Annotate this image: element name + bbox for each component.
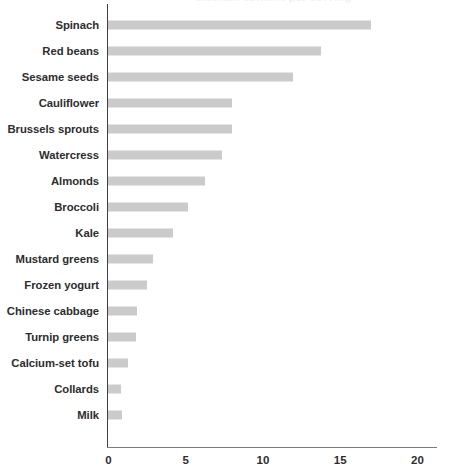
bar-almonds [108, 177, 205, 186]
bar-category-label: Cauliflower [39, 97, 99, 109]
bar-category-label: Spinach [55, 19, 99, 31]
bar-spinach [108, 21, 371, 30]
bar-row: Turnip greens [107, 324, 425, 350]
plot-area: SpinachRed beansSesame seedsCauliflowerB… [107, 6, 425, 446]
bar-category-label: Almonds [51, 175, 99, 187]
bar-row: Mustard greens [107, 246, 425, 272]
bar-turnip-greens [108, 333, 136, 342]
bar-category-label: Milk [77, 409, 99, 421]
bar-watercress [108, 151, 222, 160]
bar-chinese-cabbage [108, 307, 137, 316]
bar-category-label: Red beans [42, 45, 99, 57]
bar-row: Brussels sprouts [107, 116, 425, 142]
chart-title: Calcium content per serving [108, 0, 438, 5]
bar-category-label: Kale [75, 227, 99, 239]
bar-brussels-sprouts [108, 125, 232, 134]
bar-mustard-greens [108, 255, 153, 264]
bar-category-label: Brussels sprouts [8, 123, 100, 135]
x-tick-label: 10 [257, 454, 270, 466]
x-tick-label: 5 [183, 454, 189, 466]
bar-row: Broccoli [107, 194, 425, 220]
bar-row: Calcium-set tofu [107, 350, 425, 376]
x-tick-label: 15 [334, 454, 347, 466]
bar-row: Sesame seeds [107, 64, 425, 90]
bar-collards [108, 385, 121, 394]
bar-row: Cauliflower [107, 90, 425, 116]
x-tick-label: 20 [411, 454, 424, 466]
bar-calcium-set-tofu [108, 359, 128, 368]
bar-category-label: Turnip greens [25, 331, 99, 343]
bar-chart: Calcium content per serving SpinachRed b… [0, 0, 451, 475]
bar-milk [108, 411, 122, 420]
bar-category-label: Watercress [39, 149, 99, 161]
bar-category-label: Chinese cabbage [7, 305, 99, 317]
bar-category-label: Frozen yogurt [24, 279, 99, 291]
bar-broccoli [108, 203, 188, 212]
bar-category-label: Broccoli [54, 201, 99, 213]
bar-cauliflower [108, 99, 232, 108]
bar-row: Chinese cabbage [107, 298, 425, 324]
bar-row: Spinach [107, 12, 425, 38]
bar-category-label: Calcium-set tofu [11, 357, 99, 369]
bar-row: Frozen yogurt [107, 272, 425, 298]
bar-category-label: Collards [54, 383, 99, 395]
bar-row: Milk [107, 402, 425, 428]
bar-sesame-seeds [108, 73, 293, 82]
bar-category-label: Mustard greens [16, 253, 99, 265]
bar-row: Kale [107, 220, 425, 246]
x-tick-label: 0 [105, 454, 111, 466]
bar-frozen-yogurt [108, 281, 147, 290]
bar-red-beans [108, 47, 321, 56]
bar-row: Watercress [107, 142, 425, 168]
bar-row: Almonds [107, 168, 425, 194]
bar-row: Collards [107, 376, 425, 402]
bar-category-label: Sesame seeds [22, 71, 99, 83]
bar-kale [108, 229, 173, 238]
bar-row: Red beans [107, 38, 425, 64]
x-axis-line [107, 447, 437, 448]
